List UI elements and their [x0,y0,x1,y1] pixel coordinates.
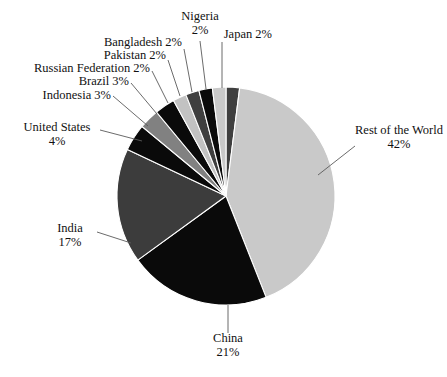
leader-line-pakistan [168,60,180,96]
slice-label-indonesia: Indonesia 3% [0,89,111,103]
pie-slice-group [117,87,335,305]
slice-label-bangladesh: Bangladesh 2% [0,36,182,50]
slice-label-china-name: China [200,332,256,346]
leader-line-brazil [131,83,157,114]
slice-label-united-states-name: United States [15,121,99,135]
slice-label-japan: Japan 2% [206,28,272,42]
slice-label-united-states: United States 4% [15,121,99,148]
leader-line-russian-federation [152,71,168,103]
slice-label-rest-of-the-world: Rest of the World 42% [355,124,443,151]
slice-label-china: China 21% [200,332,256,359]
slice-label-russian-federation: Russian Federation 2% [0,62,150,76]
slice-label-india: India 17% [44,222,96,249]
slice-label-china-value: 21% [200,346,256,360]
slice-label-pakistan: Pakistan 2% [0,49,166,63]
slice-label-rest-of-the-world-name: Rest of the World [355,124,443,138]
leader-line-bangladesh [184,49,192,92]
slice-label-india-value: 17% [44,236,96,250]
slice-label-rest-of-the-world-value: 42% [355,138,443,152]
slice-label-united-states-value: 4% [15,135,99,149]
slice-label-nigeria-name: Nigeria [173,10,227,24]
leader-line-nigeria [200,41,206,89]
slice-label-india-name: India [44,222,96,236]
leader-line-indonesia [113,96,148,126]
pie-chart: Rest of the World 42% China 21% India 17… [0,0,447,377]
slice-label-brazil: Brazil 3% [0,75,129,89]
